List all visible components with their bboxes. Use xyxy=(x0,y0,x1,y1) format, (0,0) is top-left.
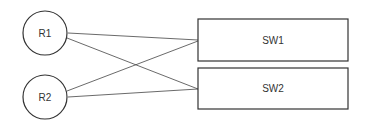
label-sw1: SW1 xyxy=(262,35,284,46)
label-sw2: SW2 xyxy=(262,83,284,94)
label-r1: R1 xyxy=(39,28,52,39)
edge-r1-sw2 xyxy=(67,38,198,89)
edge-r1-sw1 xyxy=(68,33,198,40)
network-diagram: R1 R2 SW1 SW2 xyxy=(0,0,370,126)
edge-r2-sw1 xyxy=(67,41,198,91)
label-r2: R2 xyxy=(39,92,52,103)
edge-r2-sw2 xyxy=(68,89,198,97)
diagram-svg: R1 R2 SW1 SW2 xyxy=(0,0,370,126)
